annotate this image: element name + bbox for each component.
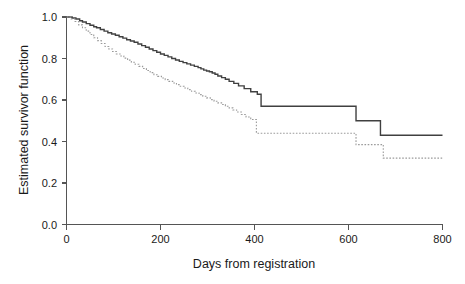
y-tick-label: 0.8 xyxy=(42,53,57,65)
x-tick-label: 400 xyxy=(245,233,263,245)
y-tick-label: 0.0 xyxy=(42,219,57,231)
y-tick-label: 0.4 xyxy=(42,136,57,148)
x-tick-label: 800 xyxy=(433,233,451,245)
y-tick-label: 1.0 xyxy=(42,11,57,23)
y-axis-title: Estimated survivor function xyxy=(17,45,31,195)
y-tick-label: 0.2 xyxy=(42,177,57,189)
x-tick-label: 0 xyxy=(63,233,69,245)
x-axis-title: Days from registration xyxy=(193,257,315,271)
chart-background xyxy=(0,0,465,284)
x-tick-label: 200 xyxy=(151,233,169,245)
x-tick-label: 600 xyxy=(339,233,357,245)
y-tick-label: 0.6 xyxy=(42,94,57,106)
chart-page: 0.00.20.40.60.81.0 Estimated survivor fu… xyxy=(0,0,465,284)
survival-curve-chart: 0.00.20.40.60.81.0 Estimated survivor fu… xyxy=(0,0,465,284)
